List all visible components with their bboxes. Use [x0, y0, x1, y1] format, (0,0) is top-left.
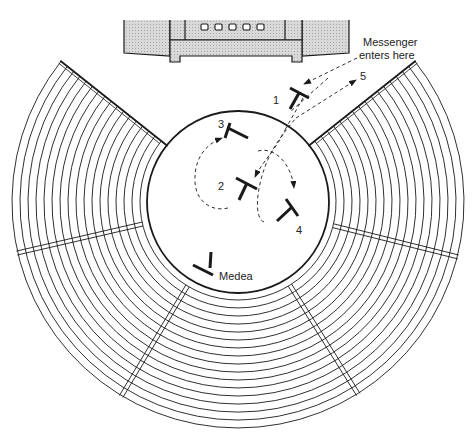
figure-3-label: 3 [218, 118, 224, 130]
skene-right-wing [302, 20, 349, 56]
skene-door [229, 24, 236, 30]
orchestra-circle [147, 111, 329, 293]
skene-door [201, 24, 208, 30]
skene-door [243, 24, 250, 30]
seating-edge-left [60, 61, 167, 146]
figure-medea-icon [193, 252, 213, 275]
path-enter-to-1 [304, 58, 357, 84]
seating-edge-right-inner [317, 63, 418, 143]
seat-row-arc [12, 61, 464, 428]
aisle-right-bottom [288, 286, 356, 395]
theatre-diagram: Messenger enters here 1 2 3 4 5 Medea [0, 0, 473, 432]
figure-2-icon [236, 178, 257, 200]
aisle-left-bottom [119, 285, 185, 396]
path-3-to-4 [258, 150, 294, 188]
aisle-left-middle [16, 222, 142, 251]
path-1-to-2 [255, 128, 286, 177]
messenger-annotation-line1: Messenger [363, 36, 418, 48]
figure-4-icon [277, 199, 298, 221]
figure-4-label: 4 [296, 224, 302, 236]
skene-left-wing [124, 20, 170, 56]
skene-door [257, 24, 264, 30]
figure-1-label: 1 [273, 94, 279, 106]
messenger-annotation-line2: enters here [359, 49, 415, 61]
aisle-right-middle [334, 224, 459, 255]
movement-paths [195, 58, 357, 222]
seat-row-arc [28, 71, 448, 412]
proskenion [170, 40, 302, 62]
aisle-left-middle [17, 226, 143, 255]
figure-1-icon [290, 88, 309, 109]
aisle-right-middle [333, 228, 458, 259]
seating-edge-left-inner [59, 63, 160, 143]
seat-row-arc [132, 136, 344, 308]
seat-row-arc [36, 76, 440, 404]
path-entry-diag-a [290, 78, 328, 112]
figure-5-label: 5 [360, 70, 366, 82]
figure-2-label: 2 [218, 180, 224, 192]
seat-row-arc [20, 66, 456, 420]
path-2-loop-to-3 [195, 138, 228, 209]
figure-medea-label: Medea [219, 270, 254, 282]
skene-door [215, 24, 222, 30]
path-to-5-exit [296, 80, 356, 118]
seating-area [12, 61, 464, 428]
figure-3-icon [225, 123, 248, 138]
skene [124, 20, 349, 62]
seat-row-arc [116, 126, 360, 324]
